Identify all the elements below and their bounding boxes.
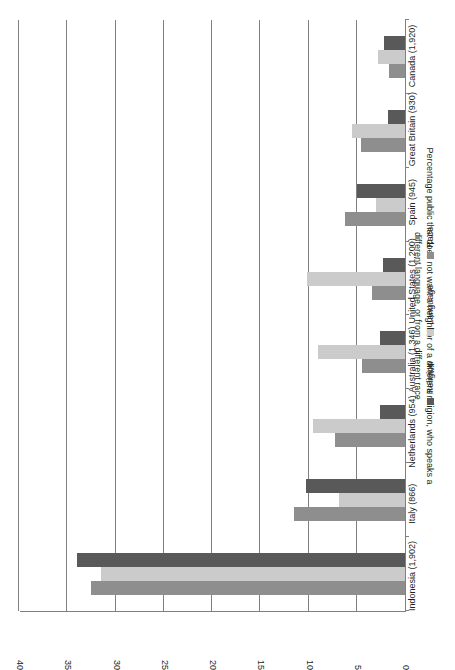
bar-language[interactable]	[101, 567, 405, 581]
bar-language[interactable]	[313, 419, 405, 433]
bar-language[interactable]	[378, 50, 405, 64]
category-label: Netherlands (954)	[406, 396, 418, 468]
value-axis-tick-label: 30	[112, 620, 122, 670]
bars	[20, 20, 405, 94]
legend-item-religion[interactable]: Religion	[424, 362, 436, 406]
legend-label: Race	[424, 227, 436, 248]
bars	[20, 242, 405, 316]
bar-language[interactable]	[352, 124, 405, 138]
chart-page: 0510152025303540 Percentage public that …	[0, 0, 455, 670]
gridline	[18, 20, 19, 611]
bar-religion[interactable]	[357, 184, 405, 198]
bar-religion[interactable]	[388, 110, 405, 124]
bars	[20, 463, 405, 537]
category-label: Australia (1,346)	[406, 323, 418, 395]
bar-language[interactable]	[307, 272, 405, 286]
category-label: United States (1,200)	[406, 238, 418, 323]
value-axis-tick-label: 35	[63, 620, 73, 670]
bar-race[interactable]	[345, 212, 405, 226]
bar-religion[interactable]	[306, 479, 405, 493]
value-axis-tick-label: 25	[160, 620, 170, 670]
bars	[20, 94, 405, 168]
bar-language[interactable]	[376, 198, 405, 212]
bar-race[interactable]	[389, 64, 405, 78]
legend-item-race[interactable]: Race	[424, 227, 436, 259]
category-axis-labels: Indonesia (1,902)Italy (866)Netherlands …	[406, 20, 418, 612]
legend-item-language[interactable]: Language	[424, 285, 436, 336]
bar-group	[20, 537, 405, 611]
legend-label: Religion	[424, 362, 436, 395]
bars	[20, 537, 405, 611]
bar-religion[interactable]	[380, 331, 405, 345]
bar-race[interactable]	[372, 286, 405, 300]
bar-religion[interactable]	[77, 553, 405, 567]
value-axis-tick-label: 40	[15, 620, 25, 670]
category-label: Canada (1,920)	[406, 20, 418, 92]
legend-swatch-icon	[427, 398, 434, 405]
legend-swatch-icon	[427, 329, 434, 336]
category-label: Spain (945)	[406, 166, 418, 238]
legend-label: Language	[424, 285, 436, 325]
bar-group	[20, 168, 405, 242]
plot-area	[20, 20, 406, 612]
legend-swatch-icon	[427, 252, 434, 259]
bar-race[interactable]	[362, 359, 405, 373]
value-axis-tick-label: 0	[401, 620, 411, 670]
category-label: Italy (866)	[406, 468, 418, 540]
bar-group	[20, 316, 405, 390]
bars	[20, 389, 405, 463]
legend: ReligionLanguageRace	[424, 20, 436, 612]
bar-religion[interactable]	[384, 36, 405, 50]
bar-race[interactable]	[91, 581, 405, 595]
bar-group	[20, 94, 405, 168]
bar-language[interactable]	[339, 493, 405, 507]
rotated-chart-wrapper: 0510152025303540 Percentage public that …	[0, 0, 455, 670]
value-axis-tick-label: 15	[256, 620, 266, 670]
value-axis-tick-label: 20	[208, 620, 218, 670]
bar-race[interactable]	[361, 138, 405, 152]
bar-group	[20, 20, 405, 94]
bar-race[interactable]	[335, 433, 405, 447]
bar-group	[20, 389, 405, 463]
bars	[20, 316, 405, 390]
bar-religion[interactable]	[383, 258, 405, 272]
bar-group	[20, 242, 405, 316]
bar-groups	[20, 20, 405, 611]
bar-group	[20, 463, 405, 537]
category-label: Indonesia (1,902)	[406, 540, 418, 612]
value-axis-tick-label: 5	[353, 620, 363, 670]
bars	[20, 168, 405, 242]
value-axis-tick-label: 10	[305, 620, 315, 670]
bar-race[interactable]	[294, 507, 405, 521]
bar-religion[interactable]	[380, 405, 405, 419]
category-label: Great Britain (930)	[406, 92, 418, 166]
bar-language[interactable]	[318, 345, 405, 359]
bar-chart: 0510152025303540 Percentage public that …	[0, 0, 455, 670]
